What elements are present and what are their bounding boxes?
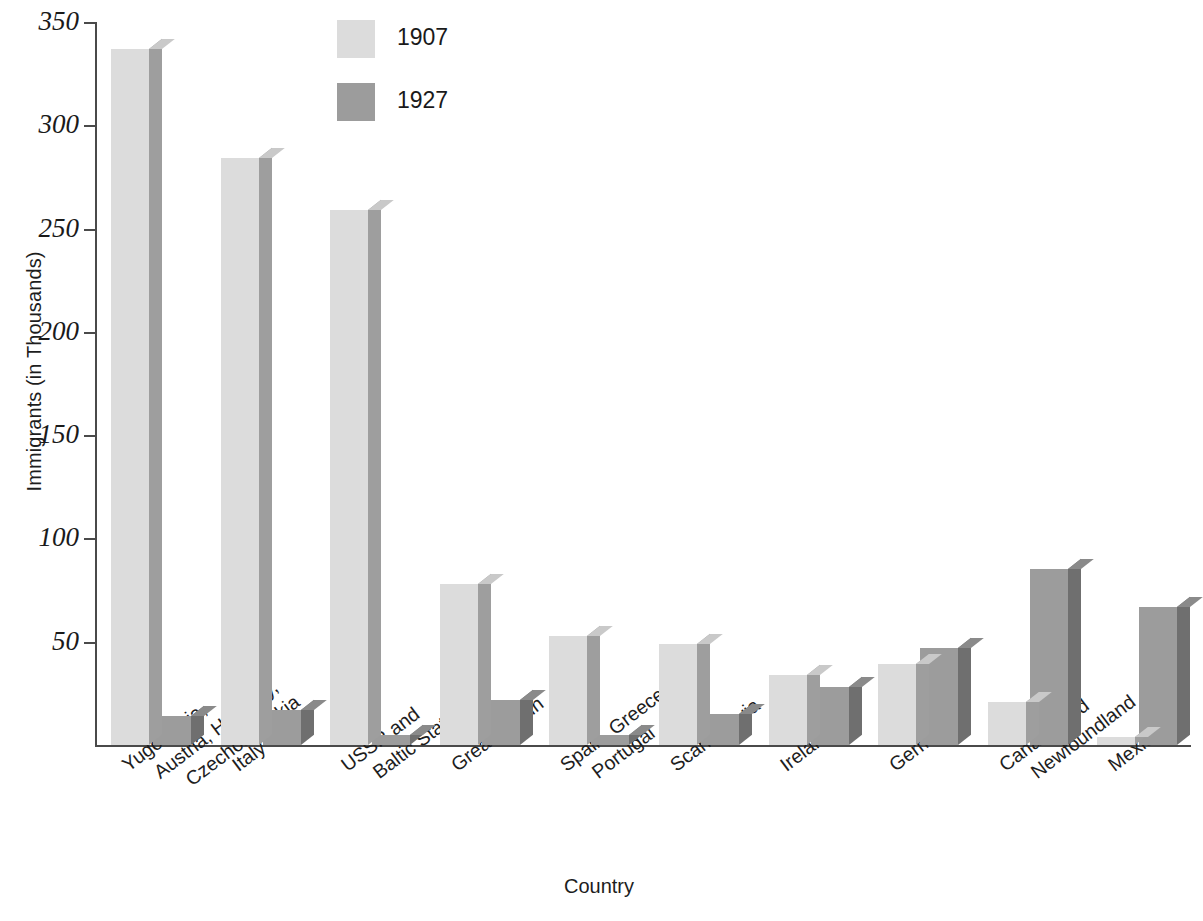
bar-front-face [549,636,587,745]
y-axis-tick-label: 50 [13,628,79,655]
bar-1907 [769,675,807,745]
caption-remnant [0,915,1198,921]
bar-top-face [149,39,175,49]
y-axis-tick-mark [84,435,97,437]
bar-side-face [149,39,162,745]
bar-top-face [478,574,504,584]
legend-item: 1927 [337,75,557,138]
bar-top-face [1068,559,1094,569]
bar-1927 [1139,607,1177,745]
bar-front-face [1097,737,1135,745]
y-axis-tick-mark [84,229,97,231]
bar-front-face [1139,607,1177,745]
x-axis-title: Country [0,875,1198,898]
bar-side-face [478,574,491,745]
bar-1907 [1097,737,1135,745]
bar-side-face [1177,596,1190,745]
bar-front-face [440,584,478,745]
bar-side-face [697,634,710,745]
legend-label: 1927 [397,87,448,114]
bar-top-face [697,634,723,644]
bar-1907 [330,210,368,745]
bar-side-face [368,200,381,745]
bar-1907 [878,664,916,745]
bar-1907 [221,158,259,745]
y-axis-tick-label: 100 [13,524,79,551]
bar-1907 [440,584,478,745]
y-axis-tick-mark [84,642,97,644]
y-axis-tick-label: 150 [13,421,79,448]
legend-item: 1907 [337,12,557,75]
y-axis-tick-mark [84,332,97,334]
bar-top-face [849,677,875,687]
bar-side-face [587,625,600,745]
medium-gray-swatch [337,83,375,121]
bar-side-face [807,665,820,745]
bar-1907 [659,644,697,745]
bar-side-face [958,638,971,745]
bar-1907 [111,49,149,745]
bar-top-face [958,638,984,648]
plot-area [95,0,1191,747]
bar-1907 [549,636,587,745]
y-axis-tick-mark [84,125,97,127]
bar-front-face [659,644,697,745]
bar-side-face [1068,559,1081,745]
bar-top-face [1177,597,1203,607]
bar-front-face [878,664,916,745]
y-axis-tick-mark [84,22,97,24]
bar-top-face [301,700,327,710]
y-axis-tick-label: 200 [13,318,79,345]
bar-side-face [259,148,272,745]
bar-front-face [769,675,807,745]
y-axis-tick-label: 350 [13,8,79,35]
y-axis-tick-mark [84,538,97,540]
y-axis-tick-label: 300 [13,111,79,138]
chart-legend: 19071927 [337,12,557,138]
bar-side-face [916,654,929,745]
x-axis-tick-labels: Yugoslavia,Austria, Hungary,Czechoslovak… [0,747,1198,877]
bar-side-face [849,677,862,745]
legend-label: 1907 [397,24,448,51]
bar-top-face [259,148,285,158]
bar-top-face [807,665,833,675]
bar-front-face [221,158,259,745]
bar-top-face [520,690,546,700]
light-gray-swatch [337,20,375,58]
bar-front-face [330,210,368,745]
y-axis-tick-label: 250 [13,215,79,242]
bar-top-face [368,200,394,210]
bar-1907 [988,702,1026,745]
bar-front-face [111,49,149,745]
bar-front-face [988,702,1026,745]
bar-top-face [587,626,613,636]
